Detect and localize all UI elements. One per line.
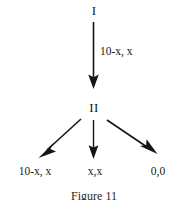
payoff-right: 0,0 xyxy=(128,165,188,177)
node-label-second: II xyxy=(0,101,188,114)
figure-caption: Figure 11 xyxy=(0,190,188,200)
payoff-left: 10-x, x xyxy=(0,165,70,177)
edge-ii-to-middle xyxy=(89,120,99,159)
edge-i-to-ii xyxy=(88,22,99,89)
payoff-middle: x,x xyxy=(68,165,122,177)
edge-ii-to-right xyxy=(107,120,158,154)
node-label-root: I xyxy=(0,4,188,17)
edge-ii-to-left xyxy=(39,119,82,158)
game-tree-figure: I II 10-x, x 10-x, x x,x 0,0 Figure 11 xyxy=(0,0,188,200)
edge-label-i-to-ii: 10-x, x xyxy=(100,45,133,57)
